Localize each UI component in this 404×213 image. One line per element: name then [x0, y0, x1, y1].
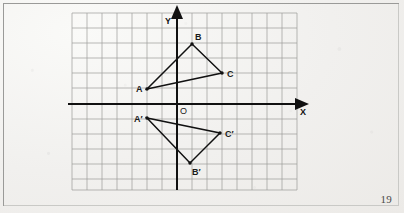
- vertex-b: [190, 42, 193, 45]
- vertex-label-a-prime: A′: [134, 115, 143, 124]
- vertex-c-prime: [218, 131, 221, 134]
- y-axis-label: Y: [165, 17, 171, 26]
- vertex-a: [145, 87, 148, 90]
- triangle-a-prime-b-prime-c-prime: [147, 118, 220, 163]
- scanned-page-background: Y X O A B C A′ B′ C′ 19: [0, 0, 404, 213]
- vertex-label-b-prime: B′: [192, 168, 201, 177]
- origin-label: O: [180, 107, 187, 116]
- triangle-a-prime-b-prime-c-prime-vertices: [145, 116, 221, 164]
- vertex-label-b: B: [195, 33, 202, 42]
- x-axis-label: X: [300, 108, 306, 117]
- vertex-label-a: A: [136, 85, 143, 94]
- vertex-a-prime: [145, 116, 148, 119]
- coordinate-geometry-figure: [0, 0, 404, 213]
- page-number: 19: [380, 193, 392, 205]
- triangle-abc-vertices: [145, 42, 223, 90]
- grid-lines: [72, 13, 297, 190]
- vertex-b-prime: [188, 161, 191, 164]
- triangle-abc: [147, 44, 222, 89]
- vertex-c: [220, 71, 223, 74]
- vertex-label-c-prime: C′: [225, 130, 234, 139]
- vertex-label-c: C: [227, 70, 234, 79]
